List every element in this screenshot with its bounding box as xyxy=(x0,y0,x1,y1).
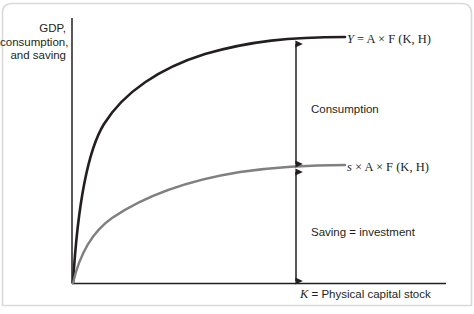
diagram-canvas xyxy=(0,0,474,314)
x-axis-label-equals: = xyxy=(308,288,321,300)
curve-output xyxy=(73,37,345,283)
x-axis-label: K = Physical capital stock xyxy=(300,288,431,301)
figure-frame xyxy=(3,4,472,306)
y-axis-label: GDP, consumption, and saving xyxy=(0,22,66,63)
curve-saving xyxy=(73,165,345,283)
annotation-consumption: Consumption xyxy=(311,103,379,116)
x-axis-label-text: Physical capital stock xyxy=(321,288,430,300)
annotation-saving-investment: Saving = investment xyxy=(311,226,415,239)
curve-label-output-body: = A × F (K, H) xyxy=(354,32,431,46)
curve-label-output-symbol: Y xyxy=(347,32,354,46)
figure-container: GDP, consumption, and saving Y = A × F (… xyxy=(0,0,474,314)
curve-label-saving: s × A × F (K, H) xyxy=(347,161,429,174)
curve-label-saving-body: × A × F (K, H) xyxy=(352,160,429,174)
curve-label-output: Y = A × F (K, H) xyxy=(347,33,431,46)
